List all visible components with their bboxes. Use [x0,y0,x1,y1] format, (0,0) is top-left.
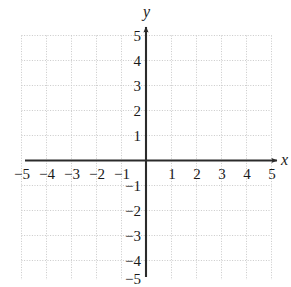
x-tick-label-1: 1 [164,167,180,182]
y-tick-label-neg5: −5 [119,272,141,287]
y-tick-label-neg3: −3 [119,229,141,244]
x-tick-label-neg3: −3 [61,167,83,182]
y-axis-label: y [143,4,150,20]
x-tick-label-5: 5 [264,167,280,182]
x-tick-label-2: 2 [189,167,205,182]
x-tick-label-4: 4 [239,167,255,182]
x-tick-label-3: 3 [214,167,230,182]
x-tick-label-neg2: −2 [86,167,108,182]
x-tick-label-neg5: −5 [11,167,33,182]
y-tick-label-5: 5 [125,29,141,44]
y-tick-label-neg1: −1 [119,179,141,194]
y-tick-label-4: 4 [125,54,141,69]
x-axis-label: x [281,152,288,168]
y-tick-label-2: 2 [125,104,141,119]
y-tick-label-1: 1 [125,129,141,144]
y-tick-label-3: 3 [125,79,141,94]
y-tick-label-neg2: −2 [119,204,141,219]
y-tick-label-neg4: −4 [119,254,141,269]
x-tick-label-neg4: −4 [36,167,58,182]
